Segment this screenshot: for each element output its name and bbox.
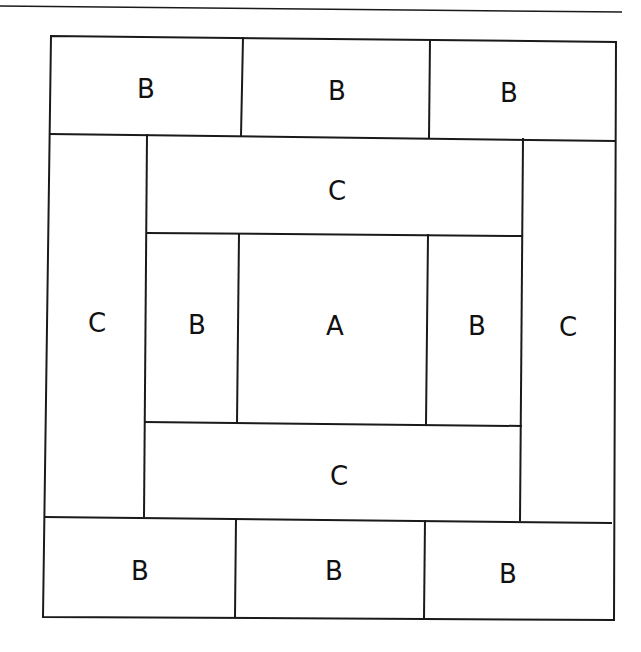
top-row-divider <box>50 134 615 141</box>
piece-label-bottom-left: B <box>131 556 149 586</box>
page-top-rule <box>0 6 622 12</box>
piece-label-inner-left: B <box>188 310 206 340</box>
inner-bottom-divider <box>145 422 521 426</box>
bottom-row-seam-1 <box>235 519 236 617</box>
piece-label-inner-top: C <box>328 176 346 206</box>
piece-label-bottom-right: B <box>499 559 517 589</box>
piece-label-right-strip: C <box>559 312 577 342</box>
top-row-seam-1 <box>241 38 243 136</box>
piece-label-left-strip: C <box>88 308 106 338</box>
top-row-seam-2 <box>429 40 430 138</box>
bottom-row-seam-2 <box>424 521 425 619</box>
piece-label-center: A <box>326 311 344 341</box>
inner-top-divider <box>147 233 522 236</box>
piece-label-inner-bottom: C <box>330 461 348 491</box>
inner-seam-left <box>237 234 239 423</box>
inner-seam-right <box>426 235 428 424</box>
piece-label-inner-right: B <box>468 311 486 341</box>
piece-label-top-left: B <box>137 74 155 104</box>
bottom-row-divider <box>45 517 611 523</box>
left-strip-edge <box>144 135 147 516</box>
quilt-block-diagram: B B B C C B A B C C B B B <box>0 0 641 652</box>
piece-label-top-right: B <box>500 78 518 108</box>
piece-label-top-center: B <box>328 76 346 106</box>
right-strip-edge <box>520 139 523 520</box>
piece-label-bottom-center: B <box>325 556 343 586</box>
